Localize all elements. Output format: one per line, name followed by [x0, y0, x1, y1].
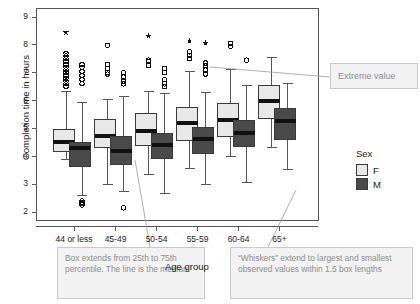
legend-label-m: M — [373, 179, 381, 190]
y-tick-label: 7 — [14, 67, 28, 77]
legend-item-m[interactable]: M — [356, 178, 381, 190]
y-tick-label: 9 — [14, 11, 28, 21]
y-tick-label: 5 — [14, 122, 28, 132]
legend-swatch-f — [356, 164, 368, 176]
y-tick-label: 4 — [14, 150, 28, 160]
x-axis — [36, 226, 318, 231]
annotation-extreme-value: Extreme value — [330, 63, 418, 89]
x-tick-label: 65+ — [250, 234, 310, 244]
median-line — [234, 131, 255, 135]
annotation-whiskers-definition: “Whiskers” extend to largest and smalles… — [230, 247, 413, 299]
median-line — [136, 129, 157, 133]
boxplot-figure: Extreme value Box extends from 25th to 7… — [0, 0, 420, 304]
median-line — [177, 121, 198, 125]
box-body — [275, 108, 296, 139]
y-axis-ticks — [32, 17, 36, 212]
legend-item-f[interactable]: F — [356, 164, 379, 176]
y-axis-title: Completion time in hours — [20, 32, 31, 184]
y-tick-label: 2 — [14, 206, 28, 216]
median-line — [259, 99, 280, 103]
legend-label-f: F — [373, 165, 379, 176]
legend-swatch-m — [356, 178, 368, 190]
x-axis-title: Age group — [165, 261, 209, 272]
y-tick-label: 3 — [14, 178, 28, 188]
y-tick-label: 8 — [14, 39, 28, 49]
box-body — [69, 142, 90, 167]
annotation-box-definition: Box extends from 25th to 75th percentile… — [57, 247, 205, 299]
legend-title: Sex — [356, 148, 372, 159]
median-line — [152, 143, 173, 147]
y-tick-label: 6 — [14, 95, 28, 105]
median-line — [275, 119, 296, 123]
median-line — [193, 137, 214, 141]
median-line — [69, 146, 90, 150]
median-line — [111, 149, 132, 153]
